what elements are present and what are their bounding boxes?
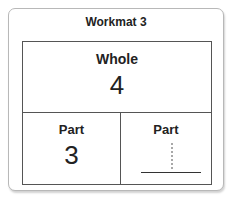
part-section-right[interactable]: Part: [121, 112, 211, 184]
part-whole-grid: Whole 4 Part 3 Part: [22, 41, 212, 185]
answer-line[interactable]: [141, 172, 201, 173]
dotted-trace-one-guide: [171, 143, 173, 169]
whole-section: Whole 4: [23, 42, 211, 113]
part-section-left: Part 3: [23, 112, 121, 184]
workmat-title: Workmat 3: [8, 15, 224, 29]
part-value-left: 3: [23, 140, 120, 171]
part-label-right: Part: [121, 122, 211, 137]
part-label-left: Part: [23, 122, 120, 137]
whole-label: Whole: [23, 51, 211, 67]
whole-value: 4: [23, 70, 211, 101]
